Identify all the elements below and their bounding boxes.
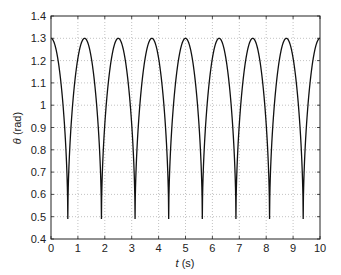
x-tick-labels: 012345678910: [48, 242, 326, 254]
y-tick-label: 0.9: [31, 122, 46, 134]
x-tick-label: 5: [182, 242, 188, 254]
y-tick-label: 1: [40, 99, 46, 111]
theta-line: [51, 38, 320, 219]
y-tick-label: 1.3: [31, 32, 46, 44]
y-tick-label: 1.4: [31, 10, 46, 22]
y-tick-label: 0.7: [31, 166, 46, 178]
theta-curve: [51, 38, 320, 219]
x-tick-label: 9: [290, 242, 296, 254]
x-tick-label: 7: [236, 242, 242, 254]
y-tick-label: 1.1: [31, 77, 46, 89]
y-axis-label: θ (rad): [11, 112, 23, 144]
y-tick-label: 0.6: [31, 188, 46, 200]
grid-lines: [51, 16, 320, 239]
x-tick-label: 10: [314, 242, 326, 254]
x-tick-label: 6: [209, 242, 215, 254]
x-tick-label: 1: [75, 242, 81, 254]
x-tick-label: 0: [48, 242, 54, 254]
y-tick-labels: 0.40.50.60.70.80.911.11.21.31.4: [31, 10, 46, 245]
chart: 012345678910 0.40.50.60.70.80.911.11.21.…: [0, 0, 341, 275]
y-tick-label: 0.5: [31, 211, 46, 223]
x-tick-label: 8: [263, 242, 269, 254]
y-tick-label: 1.2: [31, 55, 46, 67]
y-tick-label: 0.4: [31, 233, 46, 245]
x-tick-label: 2: [102, 242, 108, 254]
x-axis-label: t (s): [176, 257, 195, 269]
x-tick-label: 4: [156, 242, 162, 254]
y-tick-label: 0.8: [31, 144, 46, 156]
x-tick-label: 3: [129, 242, 135, 254]
